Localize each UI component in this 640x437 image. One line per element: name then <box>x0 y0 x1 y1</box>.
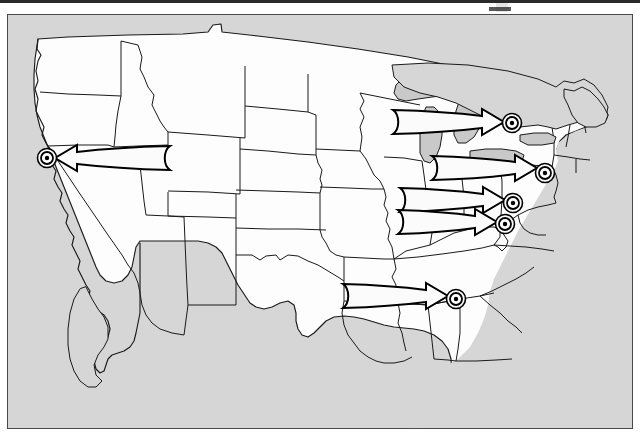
target-marker-new-york <box>536 164 555 183</box>
migration-arrow-to-san-francisco <box>55 145 170 171</box>
migration-arrow-to-new-york <box>432 155 537 181</box>
united-states-map-svg <box>8 15 632 428</box>
target-marker-baltimore <box>504 194 523 213</box>
target-marker-san-francisco <box>38 149 57 168</box>
target-marker-washington-dc <box>496 215 515 234</box>
figure-page: contiguous United States, state outlines <box>0 0 640 437</box>
scan-artifact-smudge <box>489 7 511 11</box>
top-divider-rule <box>0 0 640 3</box>
migration-arrow-to-washington-dc <box>398 209 497 235</box>
migration-arrow-to-boston <box>393 109 504 135</box>
map-frame: contiguous United States, state outlines <box>7 14 633 429</box>
target-marker-atlanta <box>447 290 466 309</box>
target-marker-boston <box>503 114 522 133</box>
lake-ontario <box>520 133 556 145</box>
migration-arrow-to-baltimore <box>400 187 505 213</box>
migration-arrow-to-atlanta <box>343 283 448 309</box>
